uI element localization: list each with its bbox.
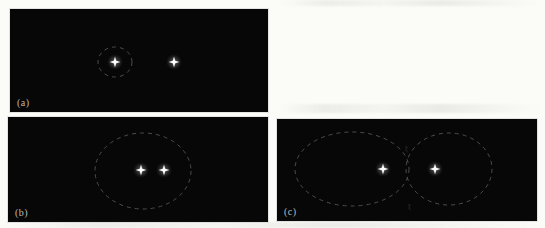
faint-center-mark xyxy=(408,205,411,210)
faint-center-mark xyxy=(405,147,408,152)
star-point xyxy=(107,54,123,70)
binary-star-figure: (a) (b) (c) xyxy=(0,0,545,228)
panel-a-plot xyxy=(10,9,268,112)
panel-c: (c) xyxy=(277,119,537,221)
panel-b-label: (b) xyxy=(15,207,28,218)
panel-c-label: (c) xyxy=(284,206,297,217)
star-point xyxy=(375,161,391,177)
panel-b: (b) xyxy=(8,117,268,222)
scan-artifact-right-mid xyxy=(278,104,540,113)
dashed-equipotential-outline xyxy=(295,132,409,206)
panel-a: (a) xyxy=(10,9,268,112)
panel-b-plot xyxy=(8,117,268,222)
dashed-equipotential-outline xyxy=(406,133,492,205)
scan-artifact-top xyxy=(280,0,540,6)
star-point xyxy=(427,161,443,177)
panel-a-label: (a) xyxy=(17,97,30,108)
scan-artifact-bottom xyxy=(0,222,545,228)
star-point xyxy=(156,162,172,178)
star-point xyxy=(133,162,149,178)
star-point xyxy=(166,54,182,70)
panel-c-plot xyxy=(277,119,537,221)
